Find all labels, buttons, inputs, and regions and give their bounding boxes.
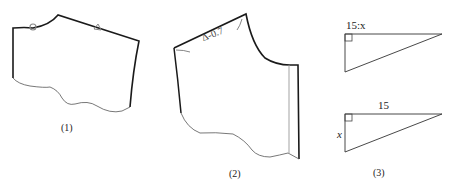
diagram-canvas <box>0 0 451 190</box>
figure-1-caption: (1) <box>61 122 73 133</box>
figure-3-caption: (3) <box>373 167 385 178</box>
figure-2-pattern-piece <box>174 14 299 159</box>
triangle-bottom-label-top: 15 <box>378 99 389 111</box>
figure-2-caption: (2) <box>229 168 241 179</box>
figure-1-pattern-piece <box>13 15 139 112</box>
label-text: 15:x <box>346 19 366 31</box>
triangle-top-label: 15:x <box>346 19 366 31</box>
figure-3-triangles <box>345 34 442 152</box>
right-angle-marker-icon <box>345 34 352 41</box>
triangle-bottom-label-left: x <box>337 128 342 140</box>
right-angle-marker-icon <box>345 114 352 121</box>
triangle-top <box>345 34 442 72</box>
triangle-bottom <box>345 114 442 152</box>
